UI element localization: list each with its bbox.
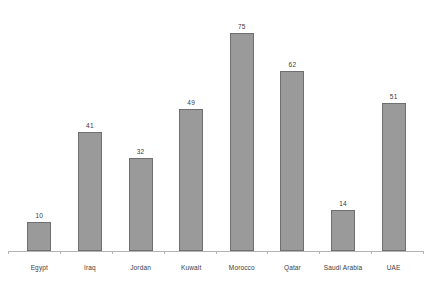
- axis-tick: [216, 251, 217, 254]
- category-label: Jordan: [130, 264, 151, 271]
- axis-tick: [60, 251, 61, 254]
- bar[interactable]: [230, 33, 254, 251]
- x-axis-ticks: [8, 251, 423, 255]
- category-label: Egypt: [31, 264, 48, 271]
- plot-area: 1041324975621451: [0, 8, 429, 251]
- axis-tick: [423, 251, 424, 254]
- bar[interactable]: [27, 222, 51, 251]
- bar[interactable]: [382, 103, 406, 251]
- bar[interactable]: [280, 71, 304, 251]
- category-label: Morocco: [229, 264, 255, 271]
- category-label-slot: Iraq: [65, 256, 116, 268]
- bar-value-label: 62: [289, 61, 297, 69]
- category-label-slot: Qatar: [267, 256, 318, 268]
- x-axis-category-labels: EgyptIraqJordanKuwaitMoroccoQatarSaudi A…: [14, 256, 419, 268]
- axis-tick: [319, 251, 320, 254]
- category-label: Saudi Arabia: [324, 264, 363, 271]
- axis-tick: [371, 251, 372, 254]
- bar-group: 14: [318, 8, 369, 251]
- bar-group: 10: [14, 8, 65, 251]
- bar-value-label: 75: [238, 23, 246, 31]
- figure-caption: [8, 274, 338, 282]
- bar-group: 75: [217, 8, 268, 251]
- bar-value-label: 32: [137, 148, 145, 156]
- bar-group: 62: [267, 8, 318, 251]
- category-label: Qatar: [284, 264, 301, 271]
- category-label: Iraq: [84, 264, 96, 271]
- bar-chart-figure: 1041324975621451 EgyptIraqJordanKuwaitMo…: [0, 0, 429, 282]
- bar-value-label: 10: [35, 212, 43, 220]
- category-label-slot: Saudi Arabia: [318, 256, 369, 268]
- bar[interactable]: [78, 132, 102, 251]
- bar[interactable]: [179, 109, 203, 251]
- bar-value-label: 49: [187, 99, 195, 107]
- axis-tick: [164, 251, 165, 254]
- axis-tick: [8, 251, 9, 254]
- bar[interactable]: [129, 158, 153, 251]
- bar-group: 49: [166, 8, 217, 251]
- bars-container: 1041324975621451: [14, 8, 419, 251]
- category-label-slot: UAE: [368, 256, 419, 268]
- category-label: Kuwait: [181, 264, 201, 271]
- bar-value-label: 51: [390, 93, 398, 101]
- bar-group: 32: [115, 8, 166, 251]
- bar[interactable]: [331, 210, 355, 251]
- category-label-slot: Egypt: [14, 256, 65, 268]
- bar-value-label: 14: [339, 200, 347, 208]
- category-label-slot: Kuwait: [166, 256, 217, 268]
- category-label-slot: Morocco: [217, 256, 268, 268]
- axis-tick: [112, 251, 113, 254]
- bar-group: 41: [65, 8, 116, 251]
- axis-tick: [267, 251, 268, 254]
- bar-group: 51: [368, 8, 419, 251]
- category-label: UAE: [387, 264, 401, 271]
- category-label-slot: Jordan: [115, 256, 166, 268]
- bar-value-label: 41: [86, 122, 94, 130]
